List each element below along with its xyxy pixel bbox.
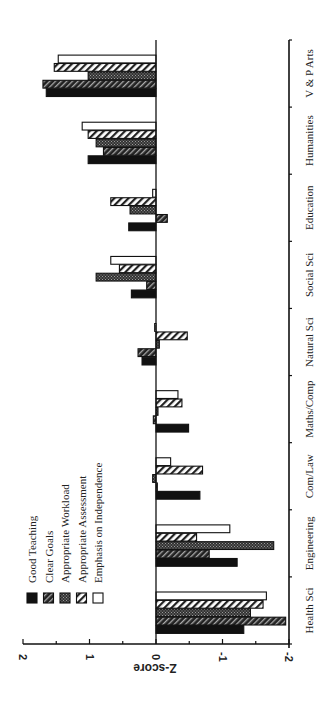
category-group: Engineering — [156, 516, 315, 570]
bar — [156, 542, 274, 550]
category-group: V & P Arts — [43, 49, 315, 98]
legend-label: Clear Goals — [43, 531, 55, 583]
bar — [138, 349, 156, 357]
bar — [111, 198, 156, 206]
legend-swatch — [44, 593, 54, 603]
z-score-bar-chart: Health SciEngineeringCom/LawMaths/CompNa… — [0, 0, 324, 705]
bar — [156, 609, 250, 617]
axis-title: Z-score — [133, 661, 177, 675]
bar — [119, 265, 156, 273]
legend-swatch — [93, 593, 103, 603]
category-label: Humanities — [303, 115, 315, 166]
bar — [156, 533, 197, 541]
bar — [147, 282, 156, 290]
bar — [46, 89, 156, 97]
bar — [156, 525, 230, 533]
bar — [88, 156, 156, 164]
legend-label: Appropriate Workload — [59, 484, 71, 583]
bar — [96, 139, 156, 147]
bar — [156, 399, 182, 407]
bar — [129, 223, 156, 231]
category-label: Education — [303, 185, 315, 230]
category-label: Engineering — [303, 516, 315, 570]
bar — [156, 458, 171, 466]
bar — [142, 357, 156, 365]
tick-label: -1 — [217, 652, 229, 662]
category-group: Social Sci — [96, 253, 315, 298]
bar — [156, 550, 209, 558]
bar — [88, 72, 156, 80]
category-label: Natural Sci — [303, 317, 315, 367]
bar — [156, 491, 200, 499]
bar — [156, 558, 237, 566]
bar — [43, 80, 156, 88]
bar — [103, 147, 156, 155]
category-group: Education — [111, 185, 315, 231]
bar — [82, 122, 156, 130]
category-group: Com/Law — [153, 454, 315, 499]
legend-label: Appropriate Assessment — [76, 476, 88, 583]
bar — [156, 215, 167, 223]
bar — [88, 131, 156, 139]
bar — [156, 466, 203, 474]
bar — [96, 273, 156, 281]
bar — [156, 424, 189, 432]
legend-swatch — [77, 593, 87, 603]
bar — [156, 617, 286, 625]
bar — [156, 592, 266, 600]
category-label: Com/Law — [303, 454, 315, 498]
tick-label: 0 — [150, 654, 162, 660]
category-label: V & P Arts — [303, 49, 315, 98]
legend-swatch — [60, 593, 70, 603]
bar — [111, 256, 156, 264]
category-group: Health Sci — [156, 587, 315, 633]
bar — [54, 64, 156, 72]
category-group: Humanities — [82, 115, 315, 166]
bar — [156, 332, 187, 340]
category-group: Maths/Comp — [153, 380, 315, 438]
bar — [156, 626, 244, 634]
bar — [156, 391, 178, 399]
legend-swatch — [27, 593, 37, 603]
legend-label: Emphasis on Independence — [92, 463, 104, 583]
bar — [131, 290, 156, 298]
bar — [156, 600, 263, 608]
bar — [130, 206, 156, 214]
bar — [58, 55, 156, 63]
tick-label: -2 — [283, 652, 295, 662]
tick-label: 2 — [17, 654, 29, 660]
legend: Good TeachingClear GoalsAppropriate Work… — [26, 463, 104, 603]
tick-label: 1 — [84, 654, 96, 660]
category-label: Health Sci — [303, 587, 315, 633]
legend-label: Good Teaching — [26, 515, 38, 583]
category-label: Maths/Comp — [303, 380, 315, 438]
category-label: Social Sci — [303, 253, 315, 297]
